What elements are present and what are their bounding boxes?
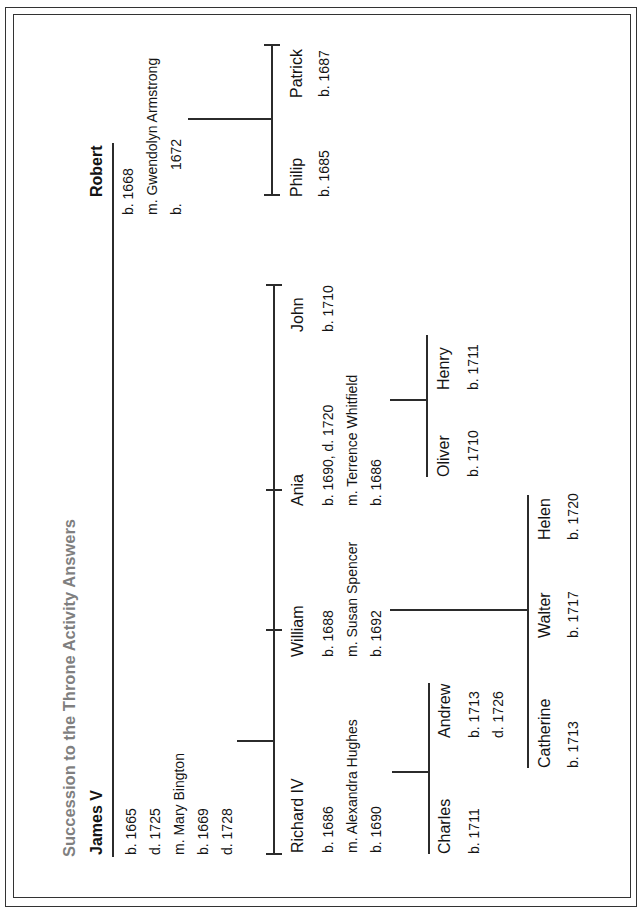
detail-spouse-death: d. 1728 (215, 753, 239, 855)
spouse-birth-label: b. (168, 203, 184, 215)
detail-birth: b. 1710 (316, 285, 340, 332)
detail-birth: b. 1713 (462, 691, 486, 738)
tick-patrick (264, 44, 280, 46)
generation-rule (112, 143, 114, 857)
person-details-charles: b. 1711 (462, 808, 486, 854)
person-details-helen: b. 1720 (561, 493, 585, 540)
person-name-richard-iv: Richard IV (290, 778, 306, 853)
person-details-walter: b. 1717 (561, 591, 585, 638)
detail-marriage: m. Terrence Whitfield (340, 375, 364, 506)
tick-ania (266, 489, 282, 491)
person-details-catherine: b. 1713 (561, 721, 585, 768)
detail-birth: b. 1665 (119, 753, 143, 855)
detail-spouse-birth: b. 1692 (364, 542, 388, 657)
detail-birth: b. 1717 (561, 591, 585, 638)
person-details-john: b. 1710 (316, 285, 340, 332)
tick-richard-iv (266, 853, 282, 855)
person-details-william: b. 1688 m. Susan Spencer b. 1692 (316, 542, 388, 657)
person-name-william: William (290, 605, 306, 657)
person-name-john: John (290, 297, 306, 332)
page-title: Succession to the Throne Activity Answer… (61, 519, 78, 857)
person-name-charles: Charles (437, 799, 453, 854)
person-details-patrick: b. 1687 (312, 50, 336, 97)
person-name-catherine: Catherine (537, 699, 553, 768)
person-details-philip: b. 1685 (312, 150, 336, 197)
sibling-line-robert-children (271, 45, 273, 195)
person-details-ania: b. 1690, d. 1720 m. Terrence Whitfield b… (316, 375, 388, 506)
detail-birth-death: b. 1690, d. 1720 (316, 375, 340, 506)
person-name-henry: Henry (436, 347, 452, 390)
person-details-richard-iv: b. 1686 m. Alexandra Hughes b. 1690 (316, 719, 388, 853)
person-name-patrick: Patrick (289, 49, 305, 98)
person-name-oliver: Oliver (436, 435, 452, 477)
person-details-andrew: b. 1713 d. 1726 (462, 691, 510, 738)
sibling-line-james-v-children (273, 285, 275, 854)
detail-spouse-birth: b. 1686 (364, 375, 388, 506)
detail-birth: b. 1711 (461, 344, 485, 390)
connector-james-v-children (237, 741, 274, 743)
sibling-line-ania-children (426, 335, 428, 477)
detail-death: d. 1725 (143, 753, 167, 855)
connector-richard-iv-children (392, 772, 429, 774)
detail-spouse-birth: b. 1669 (191, 753, 215, 855)
detail-death: d. 1726 (486, 691, 510, 738)
tick-john (266, 284, 282, 286)
detail-marriage: m. Alexandra Hughes (340, 719, 364, 853)
detail-spouse-birth: b. 1672 (164, 58, 188, 215)
person-name-helen: Helen (537, 498, 553, 540)
sibling-line-richard-iv-children (428, 683, 430, 854)
person-details-oliver: b. 1710 (461, 430, 485, 477)
detail-birth: b. 1688 (316, 542, 340, 657)
sibling-line-william-children (527, 495, 529, 768)
person-details-robert: b. 1668 m. Gwendolyn Armstrong b. 1672 (116, 58, 188, 215)
connector-william-children (390, 610, 528, 612)
detail-birth: b. 1668 (116, 58, 140, 215)
detail-marriage: m. Susan Spencer (340, 542, 364, 657)
person-name-james-v: James V (89, 790, 105, 855)
person-details-henry: b. 1711 (461, 344, 485, 390)
detail-birth: b. 1713 (561, 721, 585, 768)
person-name-philip: Philip (289, 158, 305, 197)
spouse-birth-year: 1672 (164, 139, 188, 170)
detail-birth: b. 1685 (312, 150, 336, 197)
detail-birth: b. 1711 (462, 808, 486, 854)
detail-marriage: m. Mary Bington (167, 753, 191, 855)
detail-birth: b. 1710 (461, 430, 485, 477)
connector-robert-children (188, 119, 272, 121)
person-name-robert: Robert (89, 145, 105, 197)
person-name-walter: Walter (537, 592, 553, 638)
detail-birth: b. 1686 (316, 719, 340, 853)
person-name-ania: Ania (290, 474, 306, 506)
tick-william (266, 629, 282, 631)
detail-spouse-birth: b. 1690 (364, 719, 388, 853)
tick-philip (264, 194, 280, 196)
person-name-andrew: Andrew (437, 684, 453, 738)
detail-birth: b. 1720 (561, 493, 585, 540)
person-details-james-v: b. 1665 d. 1725 m. Mary Bington b. 1669 … (119, 753, 239, 855)
detail-marriage: m. Gwendolyn Armstrong (140, 58, 164, 215)
detail-birth: b. 1687 (312, 50, 336, 97)
connector-ania-children (390, 400, 427, 402)
